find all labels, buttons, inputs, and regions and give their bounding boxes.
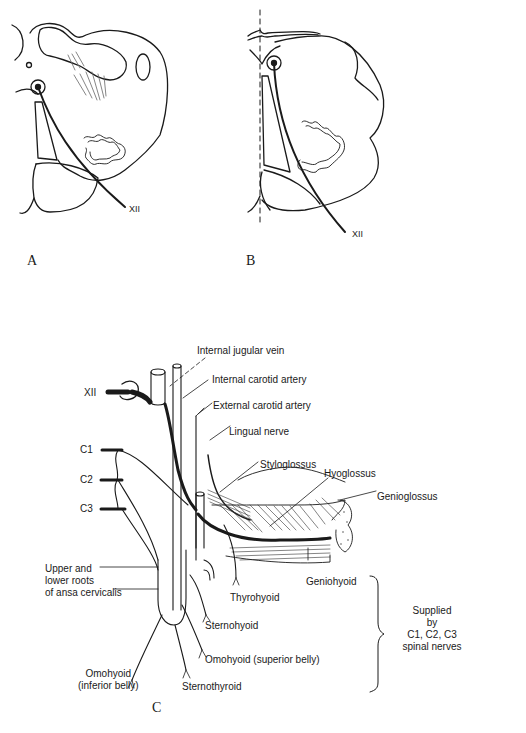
sternothyroid-label: Sternothyroid [182, 681, 241, 693]
omohyoid-inferior-line2: (inferior belly) [78, 680, 139, 692]
geniohyoid-label: Geniohyoid [306, 576, 357, 588]
panel-letter-c: C [152, 700, 161, 716]
panel-a-xii-label: XII [129, 203, 140, 215]
styloglossus-label: Styloglossus [260, 459, 316, 471]
panel-letter-b: B [246, 253, 255, 269]
omohyoid-superior-label: Omohyoid (superior belly) [205, 654, 320, 666]
ansa-label-line1: Upper and [45, 563, 122, 575]
internal-carotid-artery-label: Internal carotid artery [212, 374, 307, 386]
ansa-label-line2: lower roots [45, 575, 122, 587]
bracket-note: Supplied by C1, C2, C3 spinal nerves [392, 605, 472, 653]
thyrohyoid-label: Thyrohyoid [230, 592, 279, 604]
sternohyoid-label: Sternohyoid [205, 620, 258, 632]
panel-b-xii-label: XII [352, 228, 363, 240]
omohyoid-inferior-line1: Omohyoid [78, 668, 139, 680]
bracket-note-line4: spinal nerves [392, 641, 472, 653]
xii-nerve-label: XII [84, 387, 96, 399]
lingual-nerve-label: Lingual nerve [229, 426, 289, 438]
external-carotid-artery-label: External carotid artery [213, 400, 311, 412]
c2-label: C2 [80, 474, 93, 486]
genioglossus-label: Genioglossus [377, 491, 438, 503]
panel-letter-a: A [27, 253, 37, 269]
hyoglossus-label: Hyoglossus [324, 468, 376, 480]
ansa-label-line3: of ansa cervicalis [45, 587, 122, 599]
bracket-note-line1: Supplied [392, 605, 472, 617]
c3-label: C3 [80, 503, 93, 515]
omohyoid-inferior-label: Omohyoid (inferior belly) [78, 668, 139, 692]
internal-jugular-vein-label: Internal jugular vein [197, 345, 284, 357]
bracket-note-line3: C1, C2, C3 [392, 629, 472, 641]
ansa-cervicalis-label: Upper and lower roots of ansa cervicalis [45, 563, 122, 599]
c1-label: C1 [80, 444, 93, 456]
bracket-note-line2: by [392, 617, 472, 629]
